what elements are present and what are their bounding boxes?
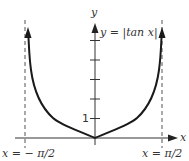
right-asymptote-label: x = π/2 [142, 148, 182, 159]
y-axis-arrow-icon [92, 23, 99, 33]
tick-label-one: 1 [82, 113, 89, 124]
y-axis-label: y [91, 7, 97, 18]
right-curve-arrow-icon [159, 27, 166, 38]
left-curve-arrow-icon [25, 27, 32, 38]
function-label: y = |tan x| [100, 27, 158, 38]
x-axis-arrow-icon [168, 135, 178, 142]
x-axis-label: x [180, 132, 186, 143]
tan-abs-graph [0, 0, 189, 161]
curve-right-branch [95, 38, 162, 138]
left-asymptote-label: x = − π/2 [2, 148, 55, 159]
